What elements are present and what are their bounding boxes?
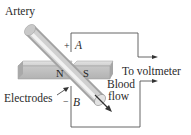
electrodes-label: Electrodes [4,92,53,104]
minus-sign: − [63,96,69,108]
blood-label: Blood [107,78,135,90]
arrow-head-bottom-icon [152,79,158,83]
artery-label: Artery [5,5,35,17]
electrode-a-label: A [75,39,82,51]
north-pole-label: N [56,68,64,80]
electrodes-pointer-arrow-icon [57,87,69,95]
arrow-head-top-icon [152,55,158,59]
plus-sign: + [64,40,70,52]
to-voltmeter-label: To voltmeter [122,65,181,77]
flow-label: flow [108,90,129,102]
wire-top [71,33,153,57]
electrode-b-label: B [73,96,80,108]
south-pole-label: S [83,68,89,80]
